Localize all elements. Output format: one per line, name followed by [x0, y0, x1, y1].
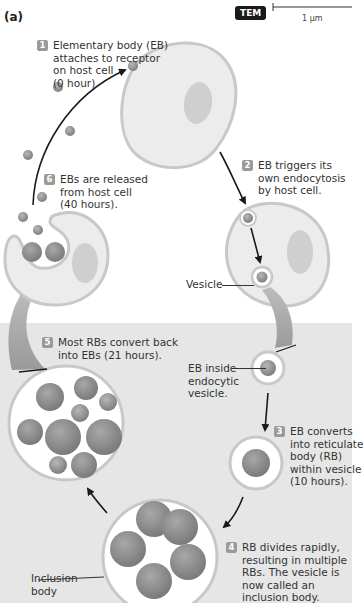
inclusion-body-step5: [9, 366, 123, 480]
inclusion-body-label: Inclusion body: [31, 572, 78, 597]
host-cell-step2: [226, 203, 328, 306]
step-4-caption: 4RB divides rapidly, resulting in multip…: [226, 541, 347, 603]
step-badge: 6: [44, 174, 55, 185]
free-eb: [18, 212, 28, 222]
step-badge: 1: [37, 40, 48, 51]
step-6-caption: 6EBs are released from host cell (40 hou…: [44, 173, 148, 211]
vesicle-leader: [222, 285, 254, 286]
inclusion-body-step4: [103, 500, 217, 603]
step-3-caption: 3EB converts into reticulate body (RB) w…: [274, 425, 363, 488]
arrow-to-step5: [88, 489, 107, 513]
scale-bar-label: 1 µm: [302, 14, 323, 23]
step-badge: 3: [274, 426, 285, 437]
tem-badge: TEM: [235, 6, 266, 20]
arrow-to-step3: [265, 393, 268, 430]
step-badge: 4: [226, 542, 237, 553]
step-badge: 5: [42, 337, 53, 348]
free-eb: [23, 150, 33, 160]
step-badge: 2: [242, 160, 253, 171]
step-2-caption: 2EB triggers its own endocytosis by host…: [242, 159, 346, 197]
free-eb: [33, 225, 43, 235]
free-eb: [65, 126, 75, 136]
step-5-caption: 5Most RBs convert back into EBs (21 hour…: [42, 336, 178, 361]
eb-inside-leader: [232, 368, 266, 369]
arrow-to-step4: [224, 497, 243, 527]
vesicle-label: Vesicle: [186, 278, 222, 291]
step-1-caption: 1Elementary body (EB) attaches to recept…: [37, 39, 168, 89]
panel-label: (a): [4, 10, 23, 24]
scale-bar: [273, 3, 352, 11]
host-cell-step6: [5, 212, 108, 305]
